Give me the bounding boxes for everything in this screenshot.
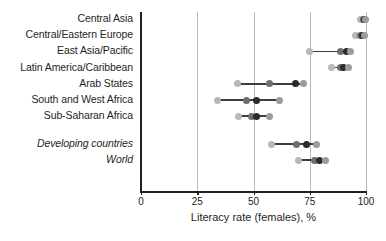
data-point xyxy=(303,141,310,148)
data-point xyxy=(313,141,320,148)
x-tick-label: 75 xyxy=(290,196,330,207)
data-point xyxy=(253,97,260,104)
x-tick-mark xyxy=(254,191,255,195)
data-point xyxy=(234,80,241,87)
category-label: Central/Eastern Europe xyxy=(0,29,133,40)
data-point xyxy=(328,64,335,71)
data-point xyxy=(268,141,275,148)
data-point xyxy=(253,113,260,120)
x-tick-label: 25 xyxy=(177,196,217,207)
series-row xyxy=(141,137,366,151)
category-label: East Asia/Pacific xyxy=(0,45,133,56)
series-row xyxy=(141,153,366,167)
data-point xyxy=(345,64,352,71)
data-point xyxy=(361,32,368,39)
x-tick-label: 100 xyxy=(346,196,386,207)
category-label: South and West Africa xyxy=(0,94,133,105)
data-point xyxy=(293,141,300,148)
data-point xyxy=(300,80,307,87)
series-row xyxy=(141,28,366,42)
data-point xyxy=(235,113,242,120)
category-label: Arab States xyxy=(0,78,133,89)
data-point xyxy=(266,80,273,87)
data-point xyxy=(243,97,250,104)
series-row xyxy=(141,109,366,123)
plot-area xyxy=(141,12,366,192)
category-label: Developing countries xyxy=(0,138,133,149)
data-point xyxy=(362,16,369,23)
data-point xyxy=(214,97,221,104)
category-axis: Central AsiaCentral/Eastern EuropeEast A… xyxy=(0,0,137,241)
data-point xyxy=(292,80,299,87)
category-label: Central Asia xyxy=(0,13,133,24)
x-axis-title: Literacy rate (females), % xyxy=(141,211,366,223)
category-label: Latin America/Caribbean xyxy=(0,62,133,73)
category-label: World xyxy=(0,154,133,165)
x-tick-mark xyxy=(310,191,311,195)
x-tick-label: 50 xyxy=(234,196,274,207)
data-point xyxy=(322,157,329,164)
data-point xyxy=(295,157,302,164)
x-tick-label: 0 xyxy=(121,196,161,207)
data-point xyxy=(266,113,273,120)
data-point xyxy=(276,97,283,104)
literacy-rate-dot-chart: Central AsiaCentral/Eastern EuropeEast A… xyxy=(0,0,386,241)
data-point xyxy=(306,48,313,55)
x-tick-mark xyxy=(141,191,142,195)
gridline xyxy=(366,12,367,192)
x-tick-mark xyxy=(366,191,367,195)
series-row xyxy=(141,93,366,107)
data-point xyxy=(347,48,354,55)
series-row xyxy=(141,61,366,75)
category-label: Sub-Saharan Africa xyxy=(0,110,133,121)
series-row xyxy=(141,77,366,91)
x-tick-mark xyxy=(197,191,198,195)
series-row xyxy=(141,44,366,58)
series-row xyxy=(141,12,366,26)
